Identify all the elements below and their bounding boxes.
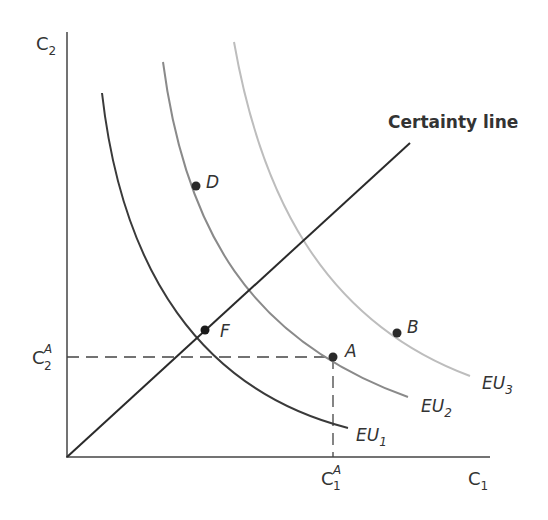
point-a [329,353,338,362]
c1a-sub: 1 [333,479,341,493]
point-b-label: B [407,317,419,337]
point-f-label: F [220,321,230,341]
y-axis-label: C2 [36,33,56,58]
eu1-curve [102,93,348,428]
point-f [201,326,210,335]
eu3-curve [234,42,470,376]
x-axis-label: C1 [468,468,488,493]
eu1-label: EU1 [356,425,387,449]
expected-utility-diagram: D F A B Certainty line EU1 EU2 EU3 C2 C1… [0,0,548,520]
c2a-sub: 2 [44,359,52,373]
eu2-label: EU2 [421,396,452,420]
eu3-label: EU3 [482,373,513,397]
point-d [192,182,201,191]
c2a-sup: A [43,342,52,356]
eu2-curve [163,62,408,397]
point-d-label: D [206,172,219,192]
certainty-line-label: Certainty line [388,112,518,132]
point-a-label: A [344,341,357,361]
c1a-sup: A [332,463,341,477]
point-b [393,329,402,338]
certainty-line [67,143,410,457]
c1a-tick-label: C [321,468,334,489]
c2a-tick-label: C [32,347,45,368]
